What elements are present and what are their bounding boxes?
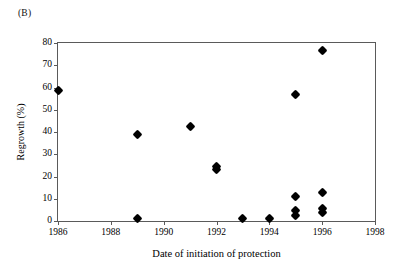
x-tick-label: 1990 xyxy=(154,228,173,238)
y-tick-mark xyxy=(54,132,58,133)
y-tick-mark xyxy=(54,110,58,111)
data-point xyxy=(317,187,327,197)
data-point xyxy=(132,214,142,224)
y-tick-mark xyxy=(54,65,58,66)
x-tick-mark xyxy=(111,221,112,225)
data-point xyxy=(132,129,142,139)
y-tick-label: 20 xyxy=(43,172,53,182)
y-tick-label: 0 xyxy=(47,216,52,226)
x-tick-label: 1986 xyxy=(49,228,68,238)
scatter-chart-figure: (B) 01020304050607080 198619881990199219… xyxy=(0,0,401,272)
y-axis-title: Regrowth (%) xyxy=(14,42,28,222)
data-point xyxy=(317,46,327,56)
data-point xyxy=(291,210,301,220)
data-point xyxy=(185,121,195,131)
data-point xyxy=(291,89,301,99)
data-point xyxy=(264,214,274,224)
x-tick-mark xyxy=(375,221,376,225)
y-tick-mark xyxy=(54,199,58,200)
x-axis-title: Date of initiation of protection xyxy=(57,248,376,259)
y-tick-label: 40 xyxy=(43,127,53,137)
y-tick-mark xyxy=(54,177,58,178)
y-tick-label: 10 xyxy=(43,194,53,204)
y-tick-mark xyxy=(54,43,58,44)
y-tick-label: 80 xyxy=(43,38,53,48)
x-tick-label: 1992 xyxy=(207,228,226,238)
x-tick-mark xyxy=(164,221,165,225)
x-tick-label: 1988 xyxy=(101,228,120,238)
x-tick-mark xyxy=(322,221,323,225)
y-tick-mark xyxy=(54,154,58,155)
x-tick-mark xyxy=(58,221,59,225)
y-tick-label: 60 xyxy=(43,83,53,93)
data-point xyxy=(238,214,248,224)
x-tick-label: 1998 xyxy=(366,228,385,238)
y-tick-label: 50 xyxy=(43,105,53,115)
plot-area: 01020304050607080 1986198819901992199419… xyxy=(57,42,376,222)
x-tick-mark xyxy=(217,221,218,225)
data-point xyxy=(291,192,301,202)
x-tick-label: 1994 xyxy=(260,228,279,238)
y-tick-label: 70 xyxy=(43,61,53,71)
x-tick-label: 1996 xyxy=(313,228,332,238)
panel-label: (B) xyxy=(18,8,31,18)
y-tick-label: 30 xyxy=(43,150,53,160)
